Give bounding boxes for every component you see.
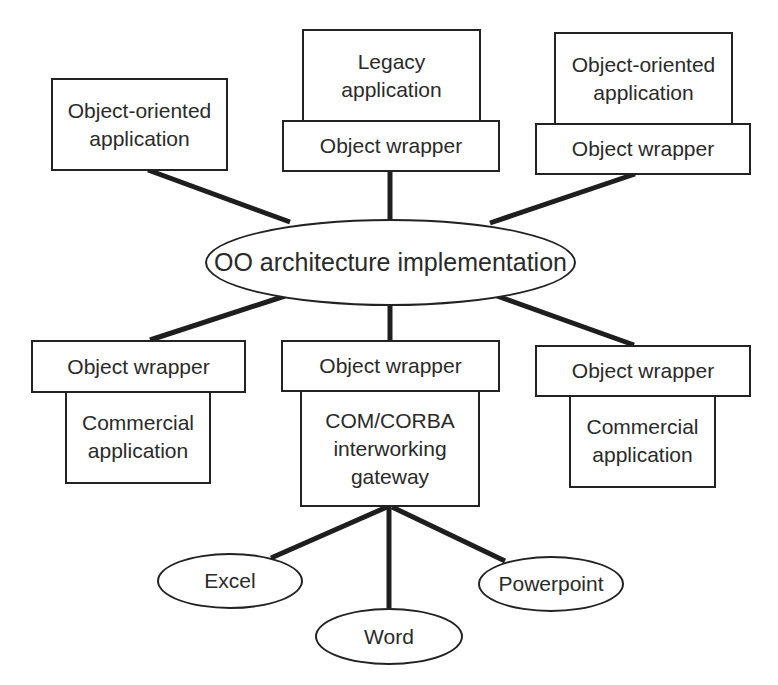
node-label: COM/CORBA interworking gateway <box>325 407 455 491</box>
legacy-application: Legacy application <box>302 29 481 122</box>
top-left-object-oriented-application: Object-oriented application <box>51 78 228 171</box>
excel-node: Excel <box>157 553 303 609</box>
edge-center-to-bottom-right-wrapper <box>497 296 634 345</box>
com-corba-interworking-gateway: COM/CORBA interworking gateway <box>300 389 480 507</box>
powerpoint-label: Powerpoint <box>498 572 603 596</box>
word-node: Word <box>315 608 463 665</box>
architecture-diagram: Object-oriented application Legacy appli… <box>0 0 778 685</box>
node-label: Object-oriented application <box>68 97 212 153</box>
node-label: Object wrapper <box>572 135 714 163</box>
edge-top-left-app-to-center <box>148 170 290 222</box>
top-right-object-wrapper: Object wrapper <box>535 123 751 175</box>
bottom-left-commercial-application: Commercial application <box>65 390 211 484</box>
bottom-right-object-wrapper: Object wrapper <box>535 345 751 397</box>
node-label: Object wrapper <box>572 357 714 385</box>
excel-label: Excel <box>204 569 255 593</box>
bottom-right-commercial-application: Commercial application <box>569 394 716 488</box>
node-label: Object wrapper <box>67 353 209 381</box>
center-label: OO architecture implementation <box>214 248 567 277</box>
top-right-object-oriented-application: Object-oriented application <box>554 32 733 125</box>
node-label: Commercial application <box>82 409 194 465</box>
edge-top-right-wrapper-to-center <box>490 174 635 223</box>
edge-gateway-to-powerpoint <box>392 507 505 561</box>
edge-center-to-bottom-left-wrapper <box>150 296 285 340</box>
edge-gateway-to-excel <box>271 507 387 558</box>
node-label: Object wrapper <box>320 132 462 160</box>
word-label: Word <box>364 625 414 649</box>
node-label: Commercial application <box>586 413 698 469</box>
bottom-left-object-wrapper: Object wrapper <box>31 340 246 393</box>
node-label: Object-oriented application <box>572 51 716 107</box>
powerpoint-node: Powerpoint <box>478 556 624 612</box>
oo-architecture-implementation: OO architecture implementation <box>205 219 576 306</box>
bottom-center-object-wrapper: Object wrapper <box>281 340 500 392</box>
node-label: Legacy application <box>341 48 441 104</box>
legacy-object-wrapper: Object wrapper <box>282 120 500 172</box>
node-label: Object wrapper <box>319 352 461 380</box>
